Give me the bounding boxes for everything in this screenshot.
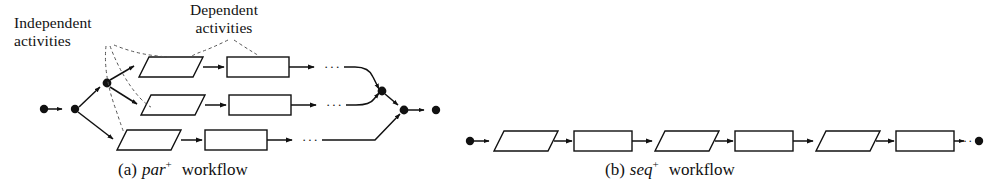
seq-rectangle-activity-3	[896, 131, 954, 151]
par-start-node-2	[71, 105, 79, 113]
panel-a-par-workflow: ··· ··· ···	[40, 40, 440, 150]
dependent-leader-lines	[191, 40, 259, 57]
dependent-leader-to-rectangle	[234, 40, 259, 57]
par-b3-parallelogram-activity	[117, 130, 181, 150]
workflow-figure: ··· ··· ···	[0, 0, 984, 194]
seq-rectangle-activity-1	[574, 131, 632, 151]
caption-a-prefix: (a)	[118, 160, 137, 179]
par-b3-edge-to-final-join	[322, 114, 400, 140]
par-b2-parallelogram-activity	[141, 95, 205, 115]
caption-a-suffix: workflow	[182, 160, 248, 179]
par-end-node	[432, 106, 440, 114]
caption-b-prefix: (b)	[605, 160, 625, 179]
caption-b-name: seq	[630, 160, 653, 179]
par-b3-rectangle-activity	[205, 130, 267, 150]
dependent-leader-to-parallelogram	[191, 40, 228, 57]
caption-panel-a: (a)par+workflow	[118, 158, 248, 180]
caption-panel-b: (b)seq+workflow	[605, 158, 735, 180]
par-edge-to-branch3	[78, 112, 113, 139]
seq-rectangle-activity-2	[735, 131, 793, 151]
label-independent-activities: Independent activities	[14, 14, 92, 50]
caption-b-suffix: workflow	[669, 160, 735, 179]
label-independent-line1: Independent	[14, 14, 92, 31]
par-b1-parallelogram-activity	[139, 57, 203, 77]
label-dependent-line2: activities	[190, 19, 258, 37]
label-dependent-activities: Dependent activities	[190, 1, 258, 37]
seq-parallelogram-activity-3	[816, 131, 880, 151]
label-independent-line2: activities	[14, 32, 92, 50]
panel-b-seq-workflow	[466, 131, 954, 151]
par-b2-ellipsis: ···	[326, 97, 343, 112]
par-edge-to-branch1	[110, 66, 134, 80]
par-b1-ellipsis: ···	[324, 59, 341, 74]
par-join-node-2	[400, 106, 409, 115]
seq-start-node	[466, 137, 474, 145]
caption-b-superscript: +	[653, 158, 659, 170]
par-edge-to-fork-node	[79, 87, 100, 107]
par-b2-edge-to-join	[346, 93, 379, 105]
par-b1-edge-to-join	[344, 67, 379, 89]
par-b3-ellipsis: ···	[302, 132, 319, 147]
independent-leader-to-b1	[114, 45, 172, 57]
caption-a-name: par	[142, 160, 166, 179]
seq-parallelogram-activity-2	[655, 131, 719, 151]
par-edge-join1-join2	[385, 94, 398, 105]
seq-parallelogram-activity-1	[494, 131, 558, 151]
caption-a-superscript: +	[166, 158, 172, 170]
par-b2-rectangle-activity	[229, 95, 291, 115]
par-b1-rectangle-activity	[227, 57, 289, 77]
label-dependent-line1: Dependent	[190, 1, 258, 18]
par-start-node-1	[40, 105, 48, 113]
